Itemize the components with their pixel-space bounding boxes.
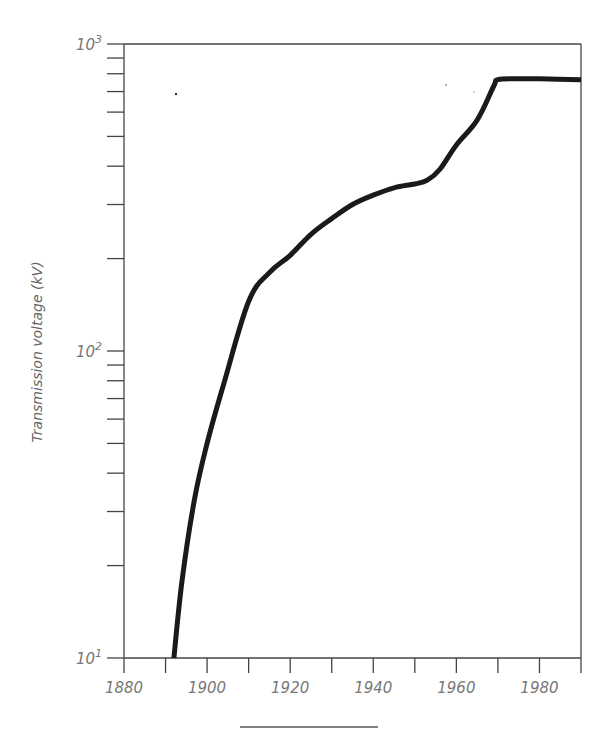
y-tick-base: 10	[76, 650, 95, 668]
axes	[124, 44, 581, 658]
x-tick-label: 1940	[354, 679, 392, 697]
voltage-chart: 188019001920194019601980101102103 Transm…	[0, 0, 605, 745]
speck-mark	[175, 93, 177, 95]
y-tick-label: 103	[76, 33, 102, 54]
x-tick-label: 1920	[271, 679, 309, 697]
series-layer	[174, 79, 581, 658]
x-tick-label: 1960	[437, 679, 475, 697]
x-tick-label: 1980	[520, 679, 558, 697]
tick-labels: 188019001920194019601980101102103	[76, 33, 559, 697]
y-axis-title: Transmission voltage (kV)	[29, 261, 45, 442]
x-tick-label: 1880	[105, 679, 143, 697]
y-tick-exponent: 1	[95, 647, 102, 660]
y-tick-exponent: 3	[95, 33, 102, 46]
y-tick-base: 10	[76, 36, 95, 54]
speck-mark	[445, 84, 447, 86]
speck-mark	[473, 91, 475, 93]
y-tick-base: 10	[76, 343, 95, 361]
y-tick-exponent: 2	[95, 340, 102, 353]
y-tick-label: 101	[76, 647, 102, 668]
voltage-curve	[174, 79, 581, 658]
ticks	[107, 44, 581, 673]
x-tick-label: 1900	[188, 679, 226, 697]
y-tick-label: 102	[76, 340, 102, 361]
